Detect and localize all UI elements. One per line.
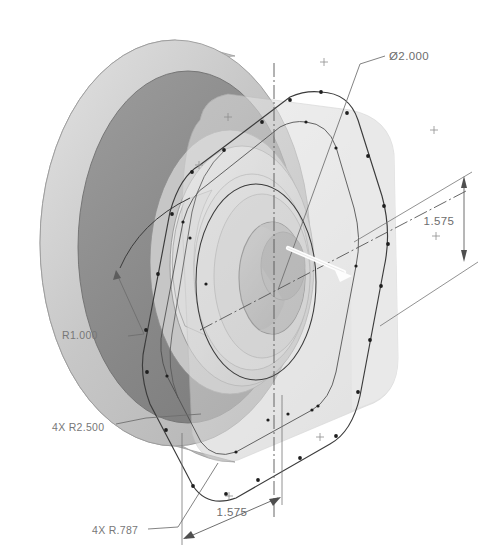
pattern-radius-large-label: 4X R2.500 — [52, 421, 104, 433]
radius-dimension-label: R1.000 — [62, 329, 98, 341]
cad-model-canvas[interactable]: Ø2.000 R1.000 4X R2.500 4X R.787 1.575 1… — [0, 0, 495, 557]
linear-dimension-right-label: 1.575 — [424, 215, 455, 227]
translucent-rounded-square-body[interactable] — [182, 94, 398, 462]
diameter-dimension-label: Ø2.000 — [389, 50, 429, 62]
linear-dimension-bottom-label: 1.575 — [217, 506, 248, 518]
cad-viewport[interactable]: Ø2.000 R1.000 4X R2.500 4X R.787 1.575 1… — [0, 0, 495, 557]
pattern-radius-small-label: 4X R.787 — [92, 524, 138, 536]
